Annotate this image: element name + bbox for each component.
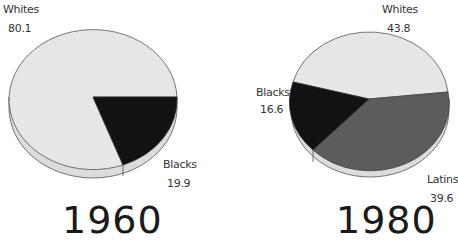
label-1980-whites: Whites: [382, 3, 418, 16]
year-1980-title: 1980: [336, 200, 437, 240]
label-1980-blacks: Blacks: [256, 86, 290, 99]
value-1980-blacks: 16.6: [260, 103, 283, 116]
value-1960-whites: 80.1: [8, 22, 31, 35]
year-1960-title: 1960: [62, 200, 163, 240]
value-1960-blacks: 19.9: [167, 177, 190, 190]
label-1960-whites: Whites: [3, 3, 39, 16]
label-1980-latins: Latins: [427, 173, 458, 186]
pie-1980: [289, 32, 449, 177]
value-1980-whites: 43.8: [387, 22, 410, 35]
label-1960-blacks: Blacks: [163, 158, 197, 171]
pie-1960: [9, 30, 177, 178]
